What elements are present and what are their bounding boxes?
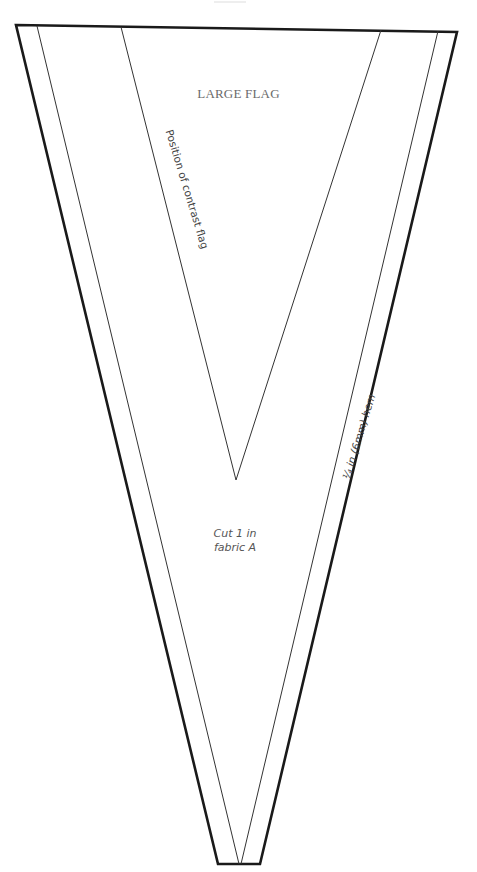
- cut-instruction-line-2: fabric A: [190, 541, 280, 555]
- cut-instruction-line-1: Cut 1 in: [190, 527, 280, 541]
- pattern-title: LARGE FLAG: [0, 86, 477, 102]
- outer-cut-outline: [16, 25, 457, 864]
- flag-pattern-diagram: [0, 0, 477, 872]
- cut-instruction: Cut 1 in fabric A: [190, 527, 280, 555]
